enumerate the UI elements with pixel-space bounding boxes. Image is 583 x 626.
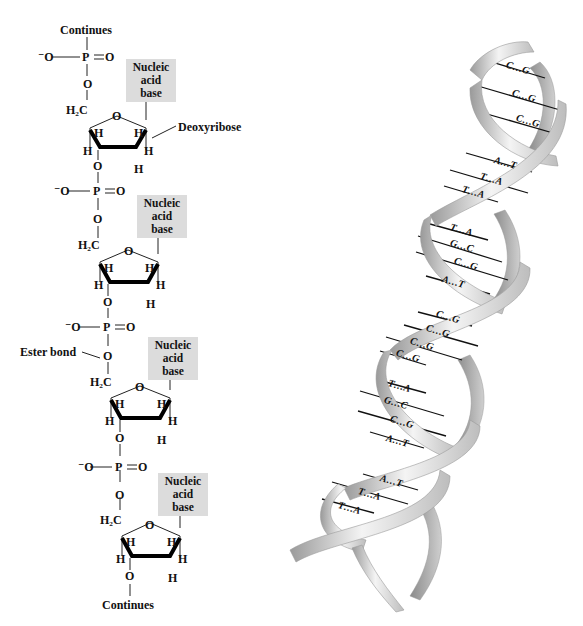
helix-ribbons xyxy=(0,0,583,626)
